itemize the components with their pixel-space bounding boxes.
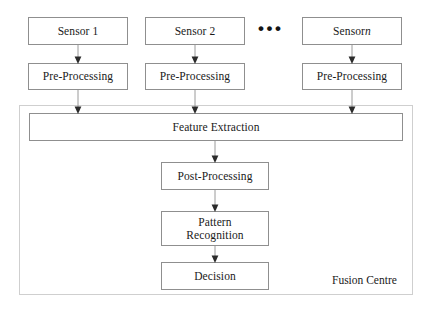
connector-pre2-to-feature-extraction (192, 90, 199, 114)
connector-sensor2-to-pre2 (192, 45, 199, 64)
connector-sensorn-to-pren (349, 45, 356, 64)
fusion-architecture-diagram: Sensor 1 Sensor 2 ••• Sensor n Pre-Proce… (0, 0, 430, 316)
connector-post-processing-to-pattern-recognition (212, 190, 219, 212)
connector-pattern-recognition-to-decision (212, 246, 219, 263)
connector-sensor1-to-pre1 (75, 45, 82, 64)
connector-pre1-to-feature-extraction (75, 90, 82, 114)
connector-feature-extraction-to-post-processing (212, 141, 219, 163)
connector-layer (0, 0, 430, 316)
connector-pren-to-feature-extraction (349, 90, 356, 114)
